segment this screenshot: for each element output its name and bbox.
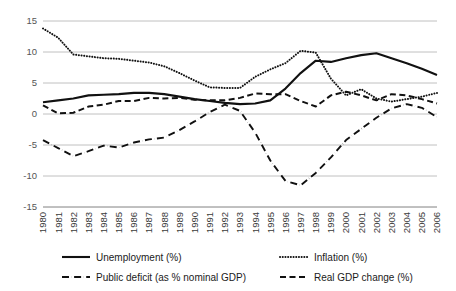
x-tick-label: 1998 — [310, 212, 321, 233]
x-tick-label: 1997 — [295, 212, 306, 233]
y-tick-label: 0 — [32, 108, 37, 119]
legend-item[interactable]: Real GDP change (%) — [280, 272, 413, 283]
x-tick-label: 2001 — [356, 212, 367, 233]
x-tick-label: 1996 — [280, 212, 291, 233]
y-tick-label: -15 — [23, 201, 37, 212]
x-tick-label: 1989 — [174, 212, 185, 233]
legend-label: Unemployment (%) — [96, 252, 182, 263]
y-tick-label: -10 — [23, 170, 37, 181]
x-tick-label: 2005 — [416, 212, 427, 233]
legend-label: Real GDP change (%) — [314, 272, 413, 283]
x-tick-label: 2000 — [340, 212, 351, 233]
legend-item[interactable]: Public deficit (as % nominal GDP) — [62, 272, 246, 283]
x-tick-label: 1982 — [68, 212, 79, 233]
legend-item[interactable]: Inflation (%) — [280, 252, 367, 263]
x-tick-label: 1991 — [204, 212, 215, 233]
chart-legend: Unemployment (%)Inflation (%)Public defi… — [62, 252, 413, 283]
x-tick-label: 2003 — [386, 212, 397, 233]
x-tick-label: 1980 — [37, 212, 48, 233]
x-tick-label: 1993 — [234, 212, 245, 233]
x-axis-tick-labels: 1980198119821983198419851986198719881989… — [37, 212, 442, 233]
series-line-unemployment — [43, 53, 437, 104]
x-tick-label: 1983 — [83, 212, 94, 233]
legend-label: Public deficit (as % nominal GDP) — [96, 272, 246, 283]
x-tick-label: 1988 — [159, 212, 170, 233]
x-tick-label: 1987 — [143, 212, 154, 233]
x-tick-label: 2002 — [371, 212, 382, 233]
x-tick-label: 1985 — [113, 212, 124, 233]
y-tick-label: -5 — [29, 139, 37, 150]
x-tick-label: 1992 — [219, 212, 230, 233]
series-line-inflation — [43, 28, 437, 101]
x-tick-label: 1994 — [250, 212, 261, 233]
legend-item[interactable]: Unemployment (%) — [62, 252, 182, 263]
x-tick-label: 2004 — [401, 212, 412, 233]
legend-label: Inflation (%) — [314, 252, 367, 263]
x-tick-label: 1999 — [325, 212, 336, 233]
gridlines — [43, 21, 437, 207]
y-tick-label: 10 — [26, 46, 37, 57]
x-tick-label: 2006 — [431, 212, 442, 233]
y-tick-label: 15 — [26, 15, 37, 26]
line-chart: 151050-5-10-15 1980198119821983198419851… — [0, 0, 456, 291]
y-axis-tick-labels: 151050-5-10-15 — [23, 15, 37, 212]
y-tick-label: 5 — [32, 77, 37, 88]
x-tick-label: 1981 — [53, 212, 64, 233]
x-tick-label: 1990 — [189, 212, 200, 233]
chart-container: 151050-5-10-15 1980198119821983198419851… — [0, 0, 456, 291]
x-tick-label: 1984 — [98, 212, 109, 233]
x-tick-label: 1986 — [128, 212, 139, 233]
x-tick-label: 1995 — [265, 212, 276, 233]
